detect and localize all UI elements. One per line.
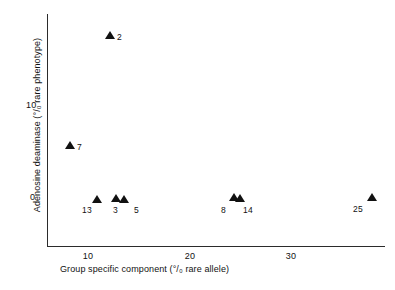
data-point-label: 3 <box>113 205 118 215</box>
data-point-marker <box>92 195 102 203</box>
x-axis-line <box>47 246 385 247</box>
scatter-chart: 10 20 30 0 10 Group specific component (… <box>0 0 395 290</box>
x-tick-label-30: 30 <box>286 251 296 261</box>
data-point-marker <box>65 141 75 149</box>
y-axis-line <box>47 14 48 247</box>
x-tick-label-20: 20 <box>185 251 195 261</box>
data-point-marker <box>105 31 115 39</box>
y-axis-title: Adenosine deaminase (°/₀ rare phenotype) <box>32 25 42 225</box>
data-point-label: 13 <box>82 205 92 215</box>
data-point-label: 5 <box>134 205 139 215</box>
data-point-label: 2 <box>117 32 122 42</box>
data-point-marker <box>119 195 129 203</box>
data-point-label: 14 <box>243 205 253 215</box>
x-tick-label-10: 10 <box>83 251 93 261</box>
data-point-label: 25 <box>353 204 363 214</box>
x-axis-title: Group specific component (°/₀ rare allel… <box>60 264 229 274</box>
data-point-marker <box>235 194 245 202</box>
data-point-label: 7 <box>77 142 82 152</box>
data-point-marker <box>367 193 377 201</box>
data-point-label: 8 <box>221 205 226 215</box>
